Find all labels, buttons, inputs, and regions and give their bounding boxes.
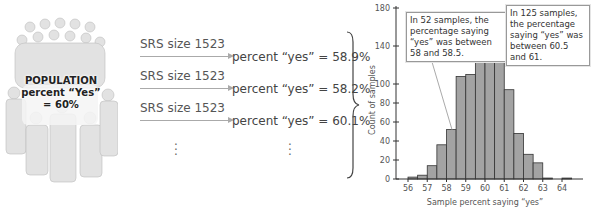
x-tick-label: 61 bbox=[499, 184, 509, 193]
annotation-right: In 125 samples, the percentage saying “y… bbox=[506, 5, 590, 66]
y-axis-label: Count of samples bbox=[368, 65, 377, 135]
y-tick-label: 180 bbox=[375, 4, 390, 13]
x-tick-label: 64 bbox=[557, 184, 567, 193]
y-tick-label: 100 bbox=[375, 80, 390, 89]
histogram-bar bbox=[418, 175, 428, 179]
x-tick-label: 57 bbox=[422, 184, 432, 193]
x-tick-label: 62 bbox=[518, 184, 528, 193]
y-tick-label: 0 bbox=[385, 175, 390, 184]
annotation-leader-left bbox=[432, 62, 452, 130]
histogram-bar bbox=[504, 90, 514, 179]
x-tick-label: 60 bbox=[480, 184, 490, 193]
histogram-bar bbox=[524, 154, 534, 179]
histogram-bar bbox=[533, 163, 543, 179]
annotation-left: In 52 samples, the percentage saying “ye… bbox=[406, 12, 506, 62]
x-tick-label: 56 bbox=[403, 184, 413, 193]
x-tick-label: 58 bbox=[441, 184, 451, 193]
histogram-bar bbox=[466, 75, 476, 180]
x-tick-label: 63 bbox=[538, 184, 548, 193]
y-tick-label: 140 bbox=[375, 42, 390, 51]
y-tick-label: 40 bbox=[380, 137, 390, 146]
y-tick-label: 60 bbox=[380, 118, 390, 127]
y-tick-label: 20 bbox=[380, 156, 390, 165]
histogram-bar bbox=[514, 133, 524, 179]
histogram-bar bbox=[447, 130, 457, 179]
histogram-bar bbox=[495, 60, 505, 179]
histogram-bar bbox=[437, 145, 447, 179]
x-tick-label: 59 bbox=[461, 184, 471, 193]
histogram-bar bbox=[427, 166, 437, 179]
y-tick-label: 80 bbox=[380, 99, 390, 108]
histogram-bar bbox=[456, 76, 466, 179]
x-axis-label: Sample percent saying “yes” bbox=[427, 198, 543, 207]
